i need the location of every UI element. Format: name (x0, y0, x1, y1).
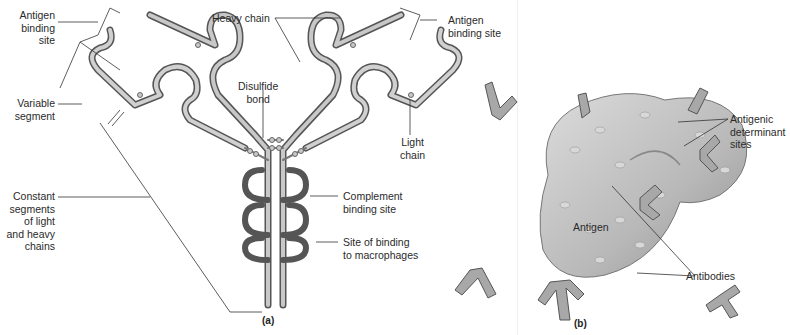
antigen-body (540, 94, 747, 278)
label-antigen-binding-site-left: Antigen binding site (0, 9, 55, 47)
right-heavy-chain (283, 15, 401, 305)
label-antigen-binding-site-right: Antigen binding site (448, 14, 501, 39)
panel-a-label: (a) (262, 315, 274, 326)
label-light-chain: Light chain (400, 136, 425, 161)
label-macrophage-binding-site: Site of binding to macrophages (343, 236, 418, 261)
label-heavy-chain: Heavy chain (212, 12, 270, 25)
label-antigenic-determinant-sites: Antigenic determinant sites (730, 113, 790, 151)
label-constant-segments: Constant segments of light and heavy cha… (0, 190, 55, 253)
disulfide-bonds (245, 140, 306, 160)
label-antibodies: Antibodies (686, 270, 735, 283)
left-heavy-chain (150, 15, 268, 305)
label-complement-binding-site: Complement binding site (343, 190, 403, 215)
label-antigen: Antigen (573, 221, 609, 234)
right-light-chain (306, 30, 459, 148)
label-variable-segment: Variable segment (0, 97, 55, 122)
panel-b-label: (b) (574, 318, 587, 329)
panel-a-leader-lines (58, 8, 437, 312)
label-disulfide-bond: Disulfide bond (238, 80, 278, 105)
constant-loops (245, 170, 306, 260)
left-light-chain (92, 30, 245, 148)
